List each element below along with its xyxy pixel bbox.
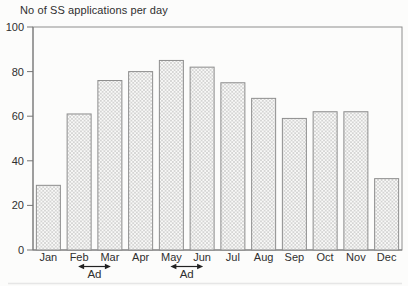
y-tick-label: 80	[12, 66, 24, 78]
y-tick-label: 60	[12, 110, 24, 122]
y-tick-label: 100	[6, 21, 24, 33]
arrowhead-left-icon	[170, 264, 176, 270]
annotation-ad-1: Ad	[170, 264, 203, 280]
arrowhead-right-icon	[197, 264, 203, 270]
bar-jun	[190, 67, 214, 250]
bar-mar	[98, 81, 122, 250]
bar-feb	[67, 114, 91, 250]
annotation-label: Ad	[180, 268, 194, 280]
annotation-ad-0: Ad	[78, 264, 111, 280]
bar-jan	[36, 185, 60, 250]
bar-oct	[313, 112, 337, 250]
x-tick-label-jul: Jul	[226, 251, 240, 263]
bar-may	[159, 60, 183, 250]
x-tick-label-aug: Aug	[254, 251, 274, 263]
y-tick-label: 0	[18, 244, 24, 256]
x-tick-label-oct: Oct	[317, 251, 334, 263]
x-tick-label-sep: Sep	[285, 251, 305, 263]
bar-aug	[252, 98, 276, 250]
x-tick-label-jan: Jan	[40, 251, 58, 263]
x-tick-label-nov: Nov	[346, 251, 366, 263]
y-tick-label: 20	[12, 199, 24, 211]
x-tick-label-dec: Dec	[377, 251, 397, 263]
bar-dec	[375, 179, 399, 250]
x-tick-label-jun: Jun	[193, 251, 211, 263]
bar-jul	[221, 83, 245, 250]
annotation-label: Ad	[87, 268, 101, 280]
bar-sep	[282, 118, 306, 250]
bar-chart-figure: No of SS applications per day 0204060801…	[0, 0, 408, 286]
bar-apr	[129, 72, 153, 250]
x-tick-label-mar: Mar	[100, 251, 119, 263]
x-tick-label-may: May	[161, 251, 182, 263]
bar-chart-canvas: 020406080100JanFebMarAprMayJunJulAugSepO…	[0, 0, 408, 286]
arrowhead-right-icon	[105, 264, 111, 270]
bar-nov	[344, 112, 368, 250]
x-tick-label-feb: Feb	[70, 251, 89, 263]
x-tick-label-apr: Apr	[132, 251, 149, 263]
y-tick-label: 40	[12, 155, 24, 167]
arrowhead-left-icon	[78, 264, 84, 270]
